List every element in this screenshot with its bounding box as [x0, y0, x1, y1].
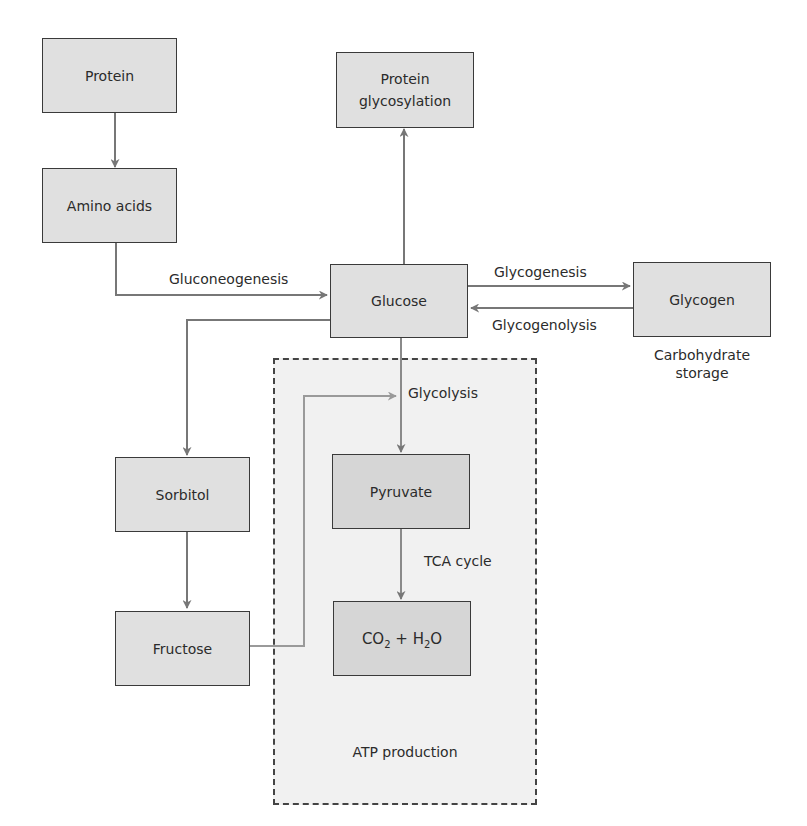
label-gluconeogenesis: Gluconeogenesis [169, 270, 288, 288]
node-glycogen-label: Glycogen [669, 289, 735, 311]
node-pyruvate: Pyruvate [332, 454, 470, 529]
node-fructose: Fructose [115, 611, 250, 686]
node-protein-glycosylation: Protein glycosylation [336, 52, 474, 128]
annotation-carbohydrate-storage: Carbohydrate storage [640, 346, 764, 382]
label-glycogenolysis: Glycogenolysis [492, 316, 597, 334]
arrow-glucose-to-sorbitol [187, 320, 355, 455]
node-protein-glycosylation-line2: glycosylation [359, 90, 451, 112]
label-tca-cycle: TCA cycle [424, 552, 492, 570]
node-fructose-label: Fructose [153, 638, 212, 660]
node-protein: Protein [42, 38, 177, 113]
metabolism-diagram: Protein Amino acids Protein glycosylatio… [0, 0, 807, 826]
node-sorbitol: Sorbitol [115, 457, 250, 532]
node-sorbitol-label: Sorbitol [156, 484, 210, 506]
node-glucose-label: Glucose [371, 290, 427, 312]
co2-text: CO [362, 630, 384, 648]
plus-h-text: + H [391, 630, 424, 648]
node-pyruvate-label: Pyruvate [370, 481, 432, 503]
label-glycolysis: Glycolysis [408, 384, 478, 402]
o-text: O [430, 630, 442, 648]
node-protein-label: Protein [85, 65, 134, 87]
node-protein-glycosylation-line1: Protein [380, 68, 429, 90]
annotation-carbohydrate-storage-line1: Carbohydrate [640, 346, 764, 364]
node-glycogen: Glycogen [633, 262, 771, 337]
node-glucose: Glucose [330, 264, 468, 338]
node-co2-h2o: CO2 + H2O [333, 601, 471, 676]
label-atp-production: ATP production [273, 743, 537, 761]
annotation-carbohydrate-storage-line2: storage [640, 364, 764, 382]
label-glycogenesis: Glycogenesis [494, 263, 587, 281]
node-co2-h2o-label: CO2 + H2O [362, 628, 442, 650]
node-amino-acids: Amino acids [42, 168, 177, 243]
node-amino-acids-label: Amino acids [67, 195, 152, 217]
